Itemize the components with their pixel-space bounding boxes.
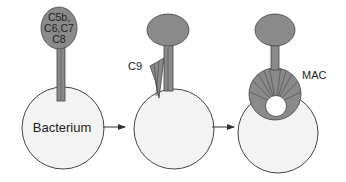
bacterium-label: Bacterium [33, 120, 92, 135]
mac-assembly-diagram: C5b, C6,C7 C8 Bacterium C9 [0, 0, 346, 182]
pore-hole [266, 96, 287, 117]
bacterium-cell [134, 89, 214, 169]
c5b-c8-complex [147, 14, 189, 46]
stage-3: MAC [238, 14, 327, 173]
c5b-c8-complex [255, 14, 295, 46]
c5b-c8-stalk [164, 44, 173, 91]
c5b-c8-stalk [271, 44, 279, 70]
stage-2: C9 [128, 14, 214, 169]
c9-label: C9 [128, 60, 142, 72]
stage-1: C5b, C6,C7 C8 Bacterium [22, 7, 104, 169]
mac-label: MAC [302, 69, 327, 81]
complex-label-line-3: C8 [52, 33, 66, 45]
